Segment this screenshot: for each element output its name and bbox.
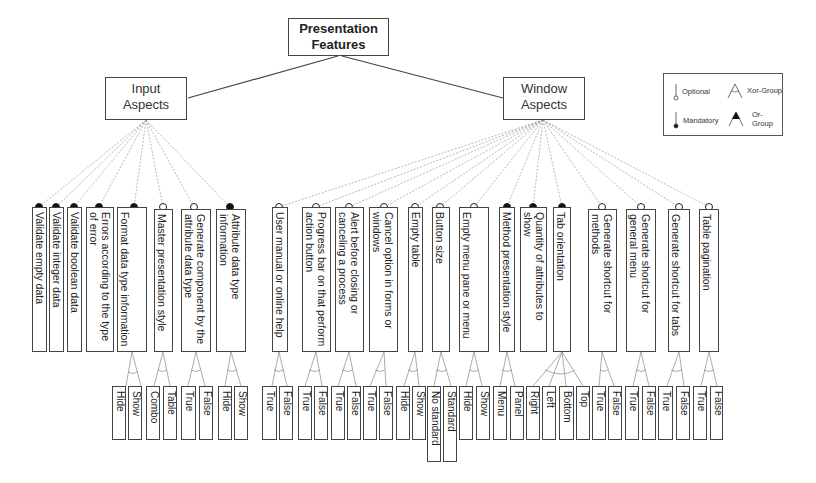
leaf-alert-false: False xyxy=(347,386,361,440)
feature-label: Table pagination xyxy=(700,214,713,347)
feature-button-size: Button size xyxy=(432,207,450,352)
feature-validate-boolean-data: Validate boolean data xyxy=(67,207,82,352)
leaf-shortcut-tabs-true: True xyxy=(658,386,673,440)
leaf-label: No standard xyxy=(428,391,441,457)
leaf-empty-table-show: Show xyxy=(412,386,426,440)
leaf-tab-bottom: Bottom xyxy=(559,386,574,440)
feature-empty-table: Empty table xyxy=(408,207,423,352)
legend: Optional Xor-Group Mandatory Or-Group xyxy=(663,73,783,136)
leaf-label: True xyxy=(332,391,345,435)
root-label-line1: Presentation xyxy=(289,21,388,37)
leaf-label: Hide xyxy=(397,391,410,435)
leaf-format-hide: Hide xyxy=(112,386,126,440)
leaf-label: Show xyxy=(477,391,490,435)
leaf-master-combo: Combo xyxy=(146,386,160,440)
leaf-label: True xyxy=(263,391,276,435)
leaf-label: Combo xyxy=(147,391,160,435)
feature-method-presentation-style: Method presentation style xyxy=(499,207,515,352)
leaf-label: True xyxy=(659,391,672,435)
feature-tab-orientation: Tab orientation xyxy=(553,207,571,352)
leaf-tab-top: Top xyxy=(576,386,590,440)
leaf-alert-true: True xyxy=(331,386,345,440)
root-node-presentation-features: Presentation Features xyxy=(288,18,389,56)
leaf-pagination-true: True xyxy=(693,386,707,440)
leaf-label: False xyxy=(609,391,622,435)
leaf-label: True xyxy=(626,391,639,435)
leaf-label: True xyxy=(694,391,707,435)
feature-empty-menu-pane: Empty menu pane or menu xyxy=(459,207,489,352)
leaf-label: False xyxy=(200,391,213,435)
leaf-shortcut-tabs-false: False xyxy=(676,386,690,440)
feature-label: Quantity of attributes to show xyxy=(521,212,546,347)
feature-cancel-option: Cancel option in forms or windows xyxy=(369,207,398,352)
feature-label: Cancel option in forms or windows xyxy=(370,212,395,347)
feature-label: Validate boolean data xyxy=(68,212,81,347)
leaf-format-show: Show xyxy=(128,386,142,440)
leaf-label: False xyxy=(677,391,690,435)
leaf-attribute-show: Show xyxy=(234,386,248,440)
leaf-label: False xyxy=(643,391,656,435)
feature-label: Attribute data type information xyxy=(217,214,242,347)
group-node-input-aspects: Input Aspects xyxy=(105,77,187,120)
group-label-line2: Aspects xyxy=(106,97,186,113)
leaf-shortcut-menu-false: False xyxy=(642,386,656,440)
feature-label: Progress bar on that perform action butt… xyxy=(303,212,328,347)
feature-label: Master presentation style xyxy=(155,214,168,347)
feature-format-data-type-information: Format data type information xyxy=(117,207,147,352)
legend-xor-group-label: Xor-Group xyxy=(747,86,782,95)
feature-label: Generate shortcut for tabs xyxy=(669,214,682,347)
feature-label: Tab orientation xyxy=(554,212,567,347)
feature-label: Validate integer data xyxy=(50,212,63,347)
leaf-method-menu: Menu xyxy=(493,386,507,440)
leaf-label: False xyxy=(711,391,723,435)
leaf-button-no-standard: No standard xyxy=(427,386,441,462)
leaf-label: False xyxy=(315,391,328,435)
legend-mandatory-label: Mandatory xyxy=(683,116,718,125)
leaf-label: True xyxy=(182,391,195,435)
leaf-shortcut-menu-true: True xyxy=(625,386,639,440)
feature-alert-before-closing: Alert before closing or canceling a proc… xyxy=(335,207,364,352)
feature-label: Generate shortcut for methods xyxy=(589,214,614,347)
feature-label: Errors according to the type of error xyxy=(87,212,112,347)
group-node-window-aspects: Window Aspects xyxy=(503,77,585,120)
group-label-line1: Input xyxy=(106,81,186,97)
feature-generate-shortcut-general-menu: Generate shortcut for general menu xyxy=(626,209,656,352)
feature-generate-shortcut-methods: Generate shortcut for methods xyxy=(588,209,617,352)
leaf-cancel-true: True xyxy=(363,386,377,440)
leaf-label: False xyxy=(348,391,361,435)
leaf-label: True xyxy=(593,391,606,435)
feature-validate-empty-data: Validate empty data xyxy=(32,207,47,352)
leaf-label: False xyxy=(380,391,393,435)
leaf-label: Table xyxy=(164,391,177,435)
leaf-attribute-hide: Hide xyxy=(218,386,232,440)
group-label-line1: Window xyxy=(504,81,584,97)
leaf-label: Hide xyxy=(113,391,126,435)
leaf-manual-true: True xyxy=(262,386,277,440)
feature-generate-component-by-type: Generate component by the attribute data… xyxy=(181,209,211,352)
leaf-menu-hide: Hide xyxy=(459,386,473,440)
leaf-shortcut-methods-false: False xyxy=(608,386,622,440)
feature-label: Generate component by the attribute data… xyxy=(182,214,207,347)
leaf-method-panel: Panel xyxy=(510,386,524,440)
feature-label: Validate empty data xyxy=(33,212,46,347)
feature-attribute-data-type-information: Attribute data type information xyxy=(216,209,246,352)
leaf-component-false: False xyxy=(199,386,213,440)
leaf-label: Top xyxy=(577,391,590,435)
leaf-cancel-false: False xyxy=(379,386,393,440)
feature-label: Format data type information xyxy=(118,212,131,347)
leaf-label: Left xyxy=(543,391,556,435)
feature-label: Alert before closing or canceling a proc… xyxy=(336,212,361,347)
feature-user-manual: User manual or online help xyxy=(272,207,288,352)
group-label-line2: Aspects xyxy=(504,97,584,113)
feature-progress-bar: Progress bar on that perform action butt… xyxy=(302,207,331,352)
leaf-label: Hide xyxy=(219,391,232,435)
leaf-tab-left: Left xyxy=(542,386,556,440)
feature-validate-integer-data: Validate integer data xyxy=(49,207,64,352)
leaf-manual-false: False xyxy=(279,386,293,440)
leaf-label: False xyxy=(280,391,293,435)
leaf-progress-true: True xyxy=(298,386,312,440)
leaf-label: Show xyxy=(235,391,248,435)
leaf-label: Standard xyxy=(444,391,457,457)
feature-label: User manual or online help xyxy=(273,212,286,347)
legend-optional-label: Optional xyxy=(682,87,710,96)
